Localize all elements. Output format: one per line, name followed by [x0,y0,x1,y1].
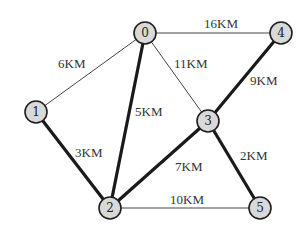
node-0: 0 [134,22,156,44]
edge-label-0-1: 6KM [58,56,86,71]
edge-label-3-5: 2KM [240,148,268,163]
node-1: 1 [25,101,47,123]
node-label-5: 5 [256,201,264,215]
node-label-3: 3 [204,114,212,128]
edge-0-1 [36,33,145,112]
node-4: 4 [270,22,292,44]
edge-label-2-3: 7KM [175,159,203,174]
edge-1-2 [36,112,110,208]
node-label-1: 1 [32,105,40,119]
node-label-2: 2 [106,201,114,215]
node-2: 2 [99,197,121,219]
node-label-0: 0 [141,26,149,40]
node-3: 3 [197,110,219,132]
edge-label-3-4: 9KM [250,73,278,88]
graph-diagram: 16KM 6KM 11KM 9KM 5KM 3KM 2KM 7KM 10KM 0… [0,0,305,239]
node-5: 5 [249,197,271,219]
edge-label-0-2: 5KM [135,104,163,119]
node-label-4: 4 [277,26,285,40]
edge-label-0-4: 16KM [204,16,238,31]
edge-label-2-5: 10KM [170,192,204,207]
edge-label-1-2: 3KM [75,145,103,160]
edge-label-0-3: 11KM [174,56,208,71]
edge-3-5 [208,121,260,208]
